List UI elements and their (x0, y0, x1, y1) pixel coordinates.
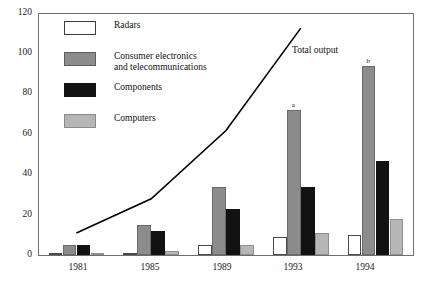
x-tick-label-1985: 1985 (115, 262, 185, 272)
total-output-line (39, 14, 413, 255)
y-tick-label-80: 80 (0, 87, 32, 97)
y-tick-label-20: 20 (0, 209, 32, 219)
plot-area: Radars Consumer electronics and telecomm… (38, 13, 414, 256)
y-tick-label-40: 40 (0, 168, 32, 178)
x-tick-label-1981: 1981 (43, 262, 113, 272)
y-tick-label-60: 60 (0, 128, 32, 138)
total-output-label: Total output (292, 45, 338, 55)
y-tick-label-120: 120 (0, 7, 32, 17)
y-tick-label-0: 0 (0, 249, 32, 259)
x-tick-label-1993: 1993 (258, 262, 328, 272)
x-tick-label-1989: 1989 (187, 262, 257, 272)
x-tick-label-1994: 1994 (330, 262, 400, 272)
y-tick-label-100: 100 (0, 47, 32, 57)
chart-container: 120 100 80 60 40 20 0 Radars Consumer el… (0, 0, 426, 286)
